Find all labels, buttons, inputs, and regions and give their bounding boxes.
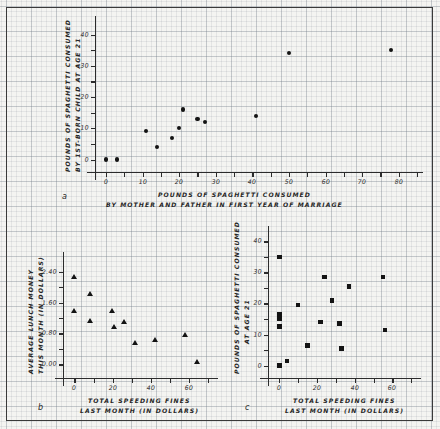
panel-a-x-tick [106,173,107,177]
panel-a-y-tick [91,35,95,36]
panel-b-x-tick [113,379,114,383]
panel-b-data-point [182,332,188,337]
panel-c-y-tick [264,272,268,273]
panel-a-y-tick-label: 40 [55,30,89,38]
panel-a-x-tick-label: 20 [165,178,193,186]
panel-a-xlabel-line2: BY MOTHER AND FATHER IN FIRST YEAR OF MA… [106,201,343,208]
panel-a-data-point [195,117,199,121]
panel-c-y-tick-label: 30 [228,268,262,276]
panel-c-y-tick-label: 40 [228,237,262,245]
panel-c-y-tick [264,241,268,242]
panel-c-data-point [318,320,323,325]
panel-c-x-axis [260,378,421,379]
panel-b-x-tick [94,379,95,383]
panel-c-y-tick [264,350,268,351]
panel-b-data-point [121,319,127,324]
panel-a-x-axis [87,172,423,173]
panel-b-x-tick-label: 0 [60,384,88,392]
panel-c-x-tick [336,379,337,383]
panel-b-y-tick [59,303,63,304]
panel-b-data-point [194,359,200,364]
panel-a-letter: a [62,192,67,201]
panel-a-x-tick-label: 60 [311,178,339,186]
panel-c-data-point [305,343,310,348]
panel-b-xlabel-line1: TOTAL SPEEDING FINES [88,397,191,404]
panel-a-x-tick-label: 50 [275,178,303,186]
panel-c-data-point [277,255,282,260]
panel-a-x-tick [307,173,308,177]
panel-b-y-tick-label: 0.00 [23,360,57,368]
panel-c-data-point [322,275,327,280]
panel-c-x-tick [411,379,412,383]
panel-a-y-tick [91,50,95,51]
panel-b-y-axis [63,252,64,386]
panel-c-y-tick [264,288,268,289]
panel-c-y-tick [264,303,268,304]
panel-c-xlabel-line2: LAST MONTH (IN DOLLARS) [285,407,404,414]
panel-a-y-axis [95,16,96,180]
figure-container: POUNDS OF SPAGHETTI CONSUMED BY 1ST-BORN… [0,0,440,429]
panel-b-data-point [132,340,138,345]
panel-a-data-point [115,157,119,161]
panel-b-data-point [111,324,117,329]
panel-a-x-tick [197,173,198,177]
panel-a-y-tick-label: 0 [55,155,89,163]
panel-b-y-tick [59,333,63,334]
panel-a-x-tick-label: 30 [202,178,230,186]
panel-c-data-point [381,275,386,280]
panel-a-y-tick [91,160,95,161]
panel-a-x-tick [252,173,253,177]
panel-c-letter: c [245,403,249,412]
panel-a-ylabel-line2: BY 1ST-BORN CHILD AT AGE 21 [74,38,81,173]
panel-c-data-point [277,312,282,317]
panel-b-x-tick [208,379,209,383]
panel-a-y-tick [91,66,95,67]
panel-a-y-tick-label: 30 [55,61,89,69]
panel-a-y-tick-label: 20 [55,93,89,101]
panel-c-x-tick [374,379,375,383]
panel-b-data-point [87,291,93,296]
panel-c-x-tick [279,379,280,383]
panel-c-x-tick [317,379,318,383]
panel-c-x-tick [298,379,299,383]
panel-c-y-tick [264,257,268,258]
panel-a-x-tick [179,173,180,177]
panel-b-y-tick [59,287,63,288]
panel-b-xlabel-line2: LAST MONTH (IN DOLLARS) [80,407,199,414]
panel-b-letter: b [38,403,43,412]
panel-a-data-point [104,157,108,161]
panel-c-data-point [296,303,301,308]
panel-b-x-tick [151,379,152,383]
panel-c-x-tick [355,379,356,383]
panel-a-x-tick-label: 0 [92,178,120,186]
panel-b-x-tick-label: 40 [137,384,165,392]
panel-a-data-point [181,107,185,111]
panel-c-x-tick-label: 60 [378,384,406,392]
panel-c-x-tick-label: 40 [341,384,369,392]
panel-b-y-tick-label: 1.60 [23,298,57,306]
panel-a-x-tick [216,173,217,177]
panel-c-x-tick-label: 20 [303,384,331,392]
panel-b-x-tick-label: 60 [175,384,203,392]
panel-a-y-tick [91,128,95,129]
panel-b-y-tick [59,349,63,350]
panel-b-y-tick [59,318,63,319]
panel-b-data-point [71,308,77,313]
panel-b-x-tick [170,379,171,383]
panel-a-data-point [203,120,207,124]
panel-a-x-tick [417,173,418,177]
panel-c-data-point [330,298,335,303]
panel-a-x-tick [271,173,272,177]
panel-a-x-tick [124,173,125,177]
panel-c-y-tick [264,319,268,320]
panel-a-x-tick [326,173,327,177]
panel-a-x-tick-label: 40 [238,178,266,186]
panel-c-x-tick [392,379,393,383]
panel-c-data-point [339,346,344,351]
panel-c-data-point [285,359,290,364]
panel-a-x-tick [234,173,235,177]
panel-c-y-tick-label: 10 [228,330,262,338]
panel-a-x-tick-label: 10 [128,178,156,186]
panel-a-x-tick [289,173,290,177]
panel-c-data-point [277,363,282,368]
